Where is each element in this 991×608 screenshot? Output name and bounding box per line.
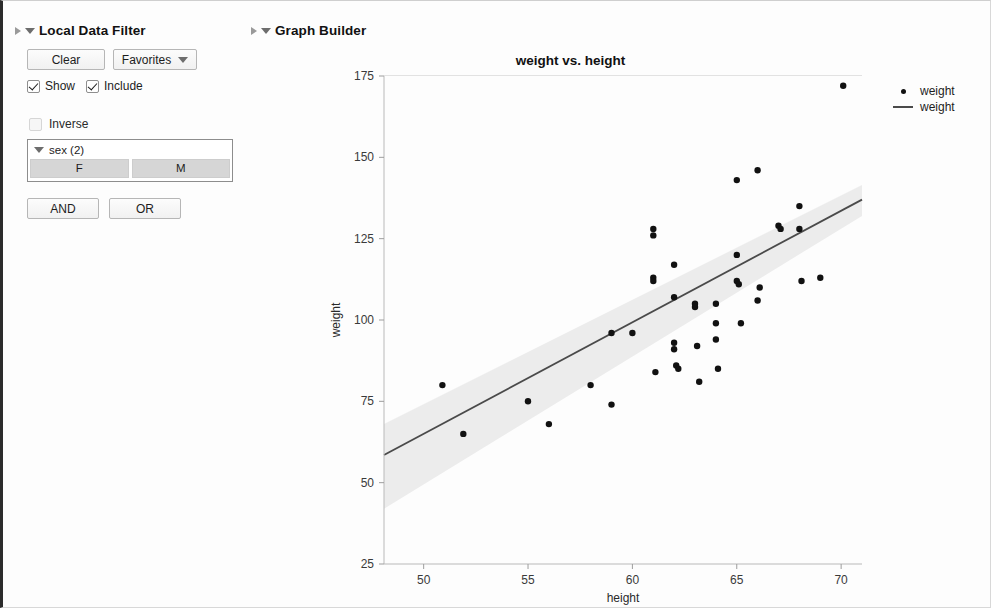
legend-dot-icon [892,89,914,94]
y-tick-label: 50 [361,476,375,490]
scatter-point[interactable] [652,369,658,375]
show-checkbox[interactable] [27,80,40,93]
scatter-point[interactable] [439,382,445,388]
local-data-filter-header[interactable]: Local Data Filter [15,23,146,38]
and-or-row: AND OR [27,198,241,219]
scatter-point[interactable] [587,382,593,388]
triangle-collapse-icon[interactable] [251,27,257,35]
red-triangle-menu-icon[interactable] [25,28,35,34]
scatter-point[interactable] [525,398,531,404]
scatter-point[interactable] [734,252,740,258]
scatter-point[interactable] [608,401,614,407]
scatter-point[interactable] [713,320,719,326]
scatter-point[interactable] [840,83,846,89]
y-tick-label: 75 [361,394,375,408]
y-tick-label: 150 [354,150,374,164]
scatter-point[interactable] [798,278,804,284]
clear-button[interactable]: Clear [27,49,105,70]
legend-label-scatter: weight [920,84,955,98]
favorites-button-label: Favorites [122,53,171,67]
inverse-label: Inverse [49,117,88,131]
scatter-point[interactable] [796,226,802,232]
legend-line-icon [892,106,914,109]
local-data-filter-panel: Local Data Filter Clear Favorites Show I… [13,23,241,583]
include-label: Include [104,79,143,93]
and-button[interactable]: AND [27,198,99,219]
x-tick-label: 55 [521,573,535,587]
scatter-plot[interactable]: 2550751001251501755055606570heightweight [251,47,990,607]
x-axis-title: height [607,591,640,605]
filter-column-name: sex (2) [49,144,84,156]
scatter-point[interactable] [460,431,466,437]
scatter-point[interactable] [694,343,700,349]
filter-column-header[interactable]: sex (2) [30,142,230,159]
scatter-point[interactable] [817,275,823,281]
chevron-down-icon [178,57,188,63]
scatter-point[interactable] [736,281,742,287]
scatter-point[interactable] [650,226,656,232]
graph-builder-title: Graph Builder [275,23,366,38]
local-data-filter-title: Local Data Filter [39,23,146,38]
show-label: Show [45,79,75,93]
scatter-point[interactable] [608,330,614,336]
scatter-point[interactable] [650,278,656,284]
x-tick-label: 65 [730,573,744,587]
scatter-point[interactable] [671,294,677,300]
filter-button-row: Clear Favorites [27,49,241,70]
scatter-point[interactable] [757,284,763,290]
scatter-point[interactable] [713,336,719,342]
x-tick-label: 50 [417,573,431,587]
filter-value-f[interactable]: F [30,159,129,178]
scatter-point[interactable] [675,366,681,372]
scatter-point[interactable] [546,421,552,427]
local-data-filter-body: Clear Favorites Show Include Inverse [27,49,241,219]
scatter-point[interactable] [671,340,677,346]
chart-area: weight vs. height 2550751001251501755055… [251,47,986,603]
scatter-point[interactable] [777,226,783,232]
chart-legend: weight weight [892,83,984,115]
scatter-point[interactable] [696,379,702,385]
x-tick-label: 60 [626,573,640,587]
y-tick-label: 100 [354,313,374,327]
scatter-point[interactable] [734,177,740,183]
scatter-point[interactable] [671,346,677,352]
scatter-point[interactable] [754,167,760,173]
y-tick-label: 175 [354,69,374,83]
legend-item-scatter[interactable]: weight [892,83,984,99]
filter-column-box: sex (2) F M [27,139,233,182]
scatter-point[interactable] [692,304,698,310]
scatter-point[interactable] [629,330,635,336]
filter-value-list: F M [30,159,230,178]
x-tick-label: 70 [834,573,848,587]
include-checkbox[interactable] [86,80,99,93]
or-button[interactable]: OR [109,198,181,219]
inverse-checkbox[interactable] [29,118,42,131]
scatter-point[interactable] [715,366,721,372]
legend-label-line: weight [920,100,955,114]
show-include-row: Show Include [27,79,241,93]
triangle-collapse-icon[interactable] [15,27,21,35]
red-triangle-menu-icon[interactable] [261,28,271,34]
legend-item-line[interactable]: weight [892,99,984,115]
favorites-button[interactable]: Favorites [113,49,197,70]
scatter-point[interactable] [671,262,677,268]
graph-builder-header[interactable]: Graph Builder [251,23,366,38]
y-tick-label: 25 [361,557,375,571]
graph-builder-panel: Graph Builder weight vs. height 25507510… [251,23,986,603]
filter-value-m[interactable]: M [132,159,231,178]
scatter-point[interactable] [754,297,760,303]
chevron-down-icon[interactable] [34,147,44,153]
y-axis-title: weight [329,302,343,338]
scatter-point[interactable] [738,320,744,326]
jmp-report-window: Local Data Filter Clear Favorites Show I… [0,0,991,608]
scatter-point[interactable] [650,232,656,238]
y-tick-label: 125 [354,232,374,246]
inverse-row: Inverse [27,117,241,131]
scatter-point[interactable] [713,301,719,307]
scatter-point[interactable] [796,203,802,209]
